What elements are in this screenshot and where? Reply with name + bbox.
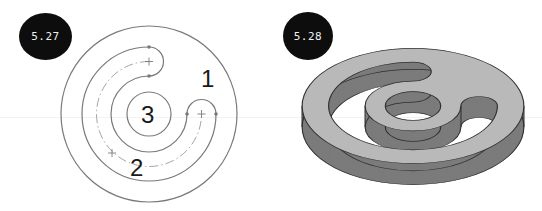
region-label-3: 3 xyxy=(141,101,154,128)
figure-canvas: 1 2 3 xyxy=(0,0,542,211)
figure-number-text: 5.27 xyxy=(31,30,60,43)
figure-number-text: 5.28 xyxy=(294,30,323,43)
solid-figure-5-28 xyxy=(302,48,524,184)
figure-number-badge-5-27: 5.27 xyxy=(19,13,72,60)
region-label-2: 2 xyxy=(130,154,143,181)
region-label-1: 1 xyxy=(201,65,214,92)
figure-number-badge-5-28: 5.28 xyxy=(283,12,333,60)
